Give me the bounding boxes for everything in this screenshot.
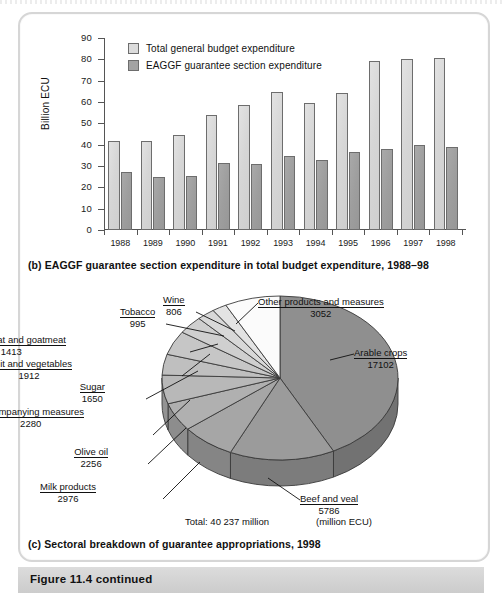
figure-page: Billion ECU 0102030405060708090 19881989… bbox=[0, 0, 504, 607]
legend-swatch-eaggf-icon bbox=[128, 60, 139, 71]
legend-label-eaggf: EAGGF guarantee section expenditure bbox=[146, 60, 322, 71]
x-tick-mark bbox=[397, 230, 398, 235]
x-tick-mark bbox=[364, 230, 365, 235]
x-tick-label-1995: 1995 bbox=[332, 238, 364, 248]
x-tick-label-1996: 1996 bbox=[365, 238, 397, 248]
x-tick-mark bbox=[104, 230, 105, 235]
x-tick-mark bbox=[299, 230, 300, 235]
bar-chart-legend: Total general budget expenditure EAGGF g… bbox=[128, 42, 322, 76]
x-tick-mark bbox=[169, 230, 170, 235]
bar-chart-panel: Billion ECU 0102030405060708090 19881989… bbox=[18, 12, 486, 267]
x-tick-mark bbox=[462, 230, 463, 235]
x-tick-label-1988: 1988 bbox=[104, 238, 136, 248]
x-tick-label-1989: 1989 bbox=[137, 238, 169, 248]
x-tick-mark bbox=[202, 230, 203, 235]
x-tick-mark bbox=[429, 230, 430, 235]
legend-swatch-total-icon bbox=[128, 43, 139, 54]
x-tick-mark bbox=[137, 230, 138, 235]
legend-item-total: Total general budget expenditure bbox=[128, 42, 322, 55]
x-tick-mark bbox=[332, 230, 333, 235]
pie-units-text: (million ECU) bbox=[316, 516, 372, 527]
panel-b-caption: (b) EAGGF guarantee section expenditure … bbox=[28, 259, 429, 271]
scan-edge bbox=[0, 0, 504, 4]
pie-total-text: Total: 40 237 million bbox=[185, 516, 269, 527]
x-tick-mark bbox=[234, 230, 235, 235]
legend-item-eaggf: EAGGF guarantee section expenditure bbox=[128, 59, 322, 72]
figure-banner: Figure 11.4 continued bbox=[18, 567, 484, 593]
x-tick-mark bbox=[267, 230, 268, 235]
pie-chart-panel: Arable crops: 17102Beef and veal: 5786Mi… bbox=[18, 275, 486, 535]
panel-c-caption: (c) Sectoral breakdown of guarantee appr… bbox=[28, 538, 321, 550]
x-tick-label-1990: 1990 bbox=[169, 238, 201, 248]
pie-chart-svg: Arable crops: 17102Beef and veal: 5786Mi… bbox=[18, 275, 486, 535]
x-tick-label-1991: 1991 bbox=[202, 238, 234, 248]
x-tick-label-1993: 1993 bbox=[267, 238, 299, 248]
x-tick-label-1994: 1994 bbox=[300, 238, 332, 248]
pie-top-faces: Arable crops: 17102Beef and veal: 5786Mi… bbox=[162, 296, 398, 460]
x-tick-label-1992: 1992 bbox=[234, 238, 266, 248]
legend-label-total: Total general budget expenditure bbox=[146, 43, 295, 54]
x-tick-label-1998: 1998 bbox=[430, 238, 462, 248]
figure-banner-label: Figure 11.4 continued bbox=[30, 573, 152, 585]
x-tick-label-1997: 1997 bbox=[397, 238, 429, 248]
